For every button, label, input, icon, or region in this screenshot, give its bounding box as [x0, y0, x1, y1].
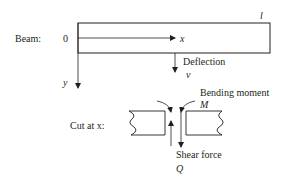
y-axis-label: y [62, 77, 68, 88]
right-beam-segment [186, 111, 223, 135]
cut-group: Cut at x: Bending moment M Shear force Q [70, 87, 269, 174]
bending-moment-symbol: M [199, 99, 209, 110]
beam-diagram: Beam: 0 x y l Deflection v Cut at x: Ben… [0, 0, 292, 185]
bending-moment-right-arrow [181, 101, 195, 112]
x-axis-label: x [179, 33, 185, 44]
bending-moment-label: Bending moment [200, 87, 269, 98]
length-label: l [260, 10, 263, 21]
left-beam-segment [129, 111, 165, 135]
shear-force-symbol: Q [176, 163, 184, 174]
cut-label-text: Cut at x: [70, 120, 104, 131]
shear-force-label: Shear force [176, 149, 222, 160]
deflection-symbol: v [186, 69, 191, 80]
beam-label: Beam: [15, 33, 41, 44]
cut-label: Cut at x: [70, 120, 104, 131]
bending-moment-left-arrow [157, 101, 171, 112]
beam-group: Beam: 0 x y l Deflection v [15, 10, 270, 88]
origin-label: 0 [63, 33, 68, 44]
deflection-label: Deflection [183, 56, 225, 67]
